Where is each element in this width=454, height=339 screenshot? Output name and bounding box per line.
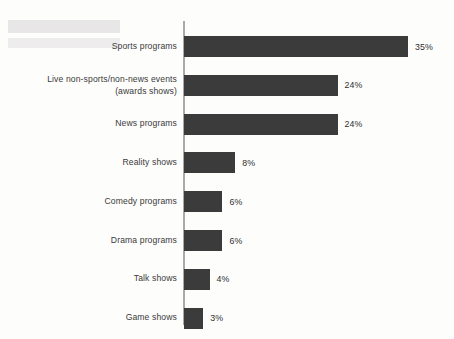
bar-row: Talk shows4% <box>0 269 454 290</box>
bar <box>184 269 210 290</box>
bar-value-label: 24% <box>345 119 363 129</box>
bar-row: Comedy programs6% <box>0 191 454 212</box>
bar-value-label: 4% <box>217 274 230 284</box>
bar-category-label: Talk shows <box>2 274 177 286</box>
bar-category-label: Sports programs <box>2 41 177 53</box>
bar <box>184 191 222 212</box>
bar-row: Reality shows8% <box>0 152 454 173</box>
bar-value-label: 35% <box>415 42 433 52</box>
bar-row: Live non-sports/non-news events (awards … <box>0 75 454 96</box>
bar-value-label: 8% <box>242 158 255 168</box>
bar-row: Drama programs6% <box>0 230 454 251</box>
bar-category-label: Live non-sports/non-news events (awards … <box>2 74 177 97</box>
bar-category-label: Comedy programs <box>2 196 177 208</box>
bar <box>184 36 408 57</box>
bar <box>184 308 203 329</box>
bar-row: News programs24% <box>0 114 454 135</box>
bar-category-label: News programs <box>2 118 177 130</box>
bar-category-label: Reality shows <box>2 157 177 169</box>
bar <box>184 152 235 173</box>
bar-row: Game shows3% <box>0 308 454 329</box>
bar-row: Sports programs35% <box>0 36 454 57</box>
bar <box>184 230 222 251</box>
bar-value-label: 6% <box>229 197 242 207</box>
bar-category-label: Drama programs <box>2 235 177 247</box>
bar <box>184 114 338 135</box>
bar <box>184 75 338 96</box>
bar-value-label: 24% <box>345 80 363 90</box>
bar-value-label: 6% <box>229 236 242 246</box>
horizontal-bar-chart: Sports programs35%Live non-sports/non-ne… <box>0 0 454 339</box>
bar-category-label: Game shows <box>2 312 177 324</box>
bar-value-label: 3% <box>210 313 223 323</box>
